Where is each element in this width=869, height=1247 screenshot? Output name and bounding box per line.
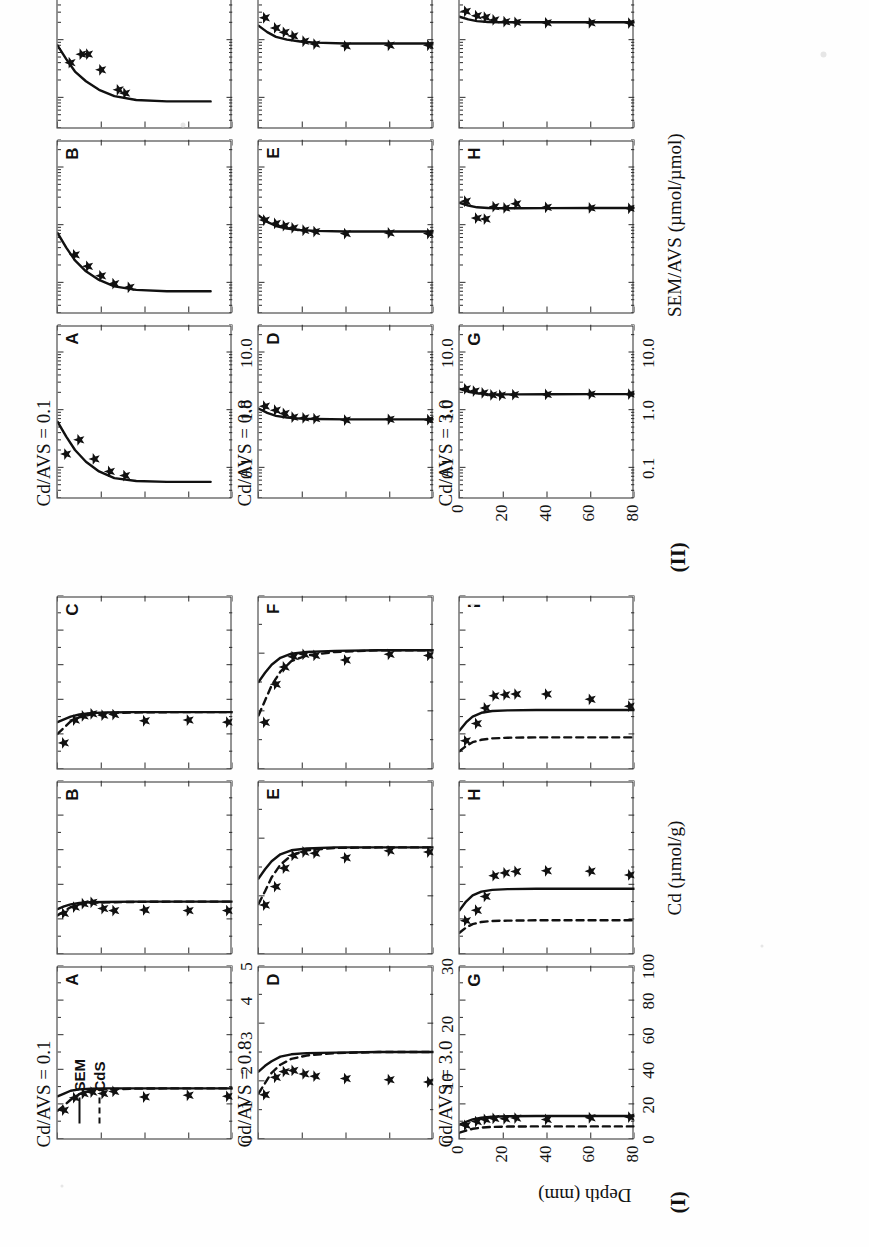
- data-point-marker: [97, 902, 108, 914]
- chart-panel-II-D: D: [257, 325, 432, 498]
- row-label-cd-avs: Cd/AVS = 3.0: [434, 399, 456, 506]
- scan-artifact: [470, 603, 474, 607]
- data-point-marker: [309, 1070, 320, 1082]
- group-tag-I: (I): [665, 1191, 690, 1213]
- plot-area: [459, 0, 634, 127]
- panel-letter-A: A: [62, 332, 82, 344]
- data-point-marker: [540, 864, 551, 876]
- data-point-marker: [540, 201, 551, 213]
- chart-panel-II-H: H: [458, 140, 633, 313]
- chart-panel-I-B: B: [56, 781, 231, 954]
- plot-area: [258, 780, 433, 953]
- chart-panel-I-E: E: [257, 781, 432, 954]
- data-point-marker: [298, 1068, 309, 1080]
- y-tick-label: 80: [622, 1145, 642, 1173]
- panel-letter-H: H: [464, 147, 484, 159]
- data-point-marker: [623, 869, 634, 881]
- panel-letter-E: E: [263, 788, 283, 799]
- legend: SEMCdS: [70, 1058, 110, 1123]
- panel-letter-E: E: [263, 147, 283, 158]
- data-point-marker: [57, 737, 68, 749]
- scan-artifact: [60, 1184, 63, 1187]
- chart-panel-II-B: B: [56, 140, 231, 313]
- figure-canvas: ABCCd/AVS = 0.1012345DEFCd/AVS = 0.80102…: [0, 0, 869, 1247]
- data-point-marker: [339, 227, 350, 239]
- data-point-marker: [422, 1076, 433, 1088]
- plot-area: [459, 595, 634, 768]
- legend-key-solid: [78, 1097, 80, 1123]
- data-point-marker: [470, 717, 481, 729]
- scan-artifact: [180, 122, 185, 127]
- legend-item-sem: SEM: [70, 1058, 87, 1123]
- plot-area: [57, 324, 232, 497]
- x-tick-label: 0.1: [638, 452, 658, 484]
- plot-area: [57, 0, 232, 127]
- data-point-marker: [182, 1089, 193, 1101]
- x-axis-title: Cd (µmol/g): [663, 778, 685, 958]
- data-point-marker: [339, 654, 350, 666]
- data-point-marker: [339, 40, 350, 52]
- data-point-marker: [488, 869, 499, 881]
- panel-letter-H: H: [464, 788, 484, 800]
- legend-key-dashed: [98, 1097, 100, 1123]
- series-semavs: [57, 232, 210, 290]
- data-point-marker: [309, 38, 320, 50]
- data-point-marker: [479, 213, 490, 225]
- plot-area: [258, 595, 433, 768]
- plot-area: [459, 965, 634, 1138]
- data-point-marker: [88, 453, 99, 465]
- chart-panel-II-A: A: [56, 325, 231, 498]
- panel-letter-G: G: [464, 332, 484, 345]
- data-point-marker: [383, 39, 394, 51]
- y-tick-label: 60: [578, 1145, 598, 1173]
- data-point-marker: [510, 1112, 521, 1124]
- data-point-marker: [182, 714, 193, 726]
- data-point-marker: [123, 281, 134, 293]
- data-point-marker: [138, 714, 149, 726]
- x-tick-label: 60: [638, 1019, 658, 1051]
- plot-area: [258, 139, 433, 312]
- x-tick-label: 20: [437, 1008, 457, 1040]
- panel-letter-A: A: [62, 973, 82, 985]
- series-cds: [459, 920, 634, 932]
- chart-panel-I-C: C: [56, 596, 231, 769]
- x-tick-label: 30: [437, 950, 457, 982]
- row-label-cd-avs: Cd/AVS = 0.8: [233, 399, 255, 506]
- chart-panel-II-I: I: [458, 0, 633, 128]
- plot-area: [459, 324, 634, 497]
- x-tick-label: 80: [638, 985, 658, 1017]
- data-point-marker: [269, 880, 280, 892]
- data-point-marker: [499, 866, 510, 878]
- data-point-marker: [510, 865, 521, 877]
- data-point-marker: [138, 904, 149, 916]
- x-axis-title: SEM/AVS (µmol/µmol): [663, 137, 685, 317]
- plot-area: [258, 965, 433, 1138]
- figure-rotation-wrapper: ABCCd/AVS = 0.1012345DEFCd/AVS = 0.80102…: [0, 0, 869, 1247]
- chart-panel-II-C: C: [56, 0, 231, 128]
- data-point-marker: [182, 904, 193, 916]
- data-point-marker: [488, 689, 499, 701]
- data-point-marker: [470, 212, 481, 224]
- scan-artifact: [760, 944, 763, 947]
- x-tick-label: 40: [638, 1054, 658, 1086]
- y-tick-label: 80: [622, 504, 642, 532]
- series-sem: [459, 710, 634, 730]
- series-semavs: [57, 421, 210, 481]
- x-tick-label: 5: [236, 950, 256, 982]
- data-point-marker: [459, 5, 470, 17]
- panel-letter-B: B: [62, 788, 82, 800]
- panel-letter-C: C: [62, 603, 82, 615]
- plot-area: [57, 139, 232, 312]
- data-point-marker: [269, 22, 280, 34]
- data-point-marker: [459, 914, 470, 926]
- scan-artifact: [820, 51, 826, 57]
- data-point-marker: [339, 851, 350, 863]
- data-point-marker: [138, 1091, 149, 1103]
- legend-label: SEM: [70, 1058, 87, 1091]
- data-point-marker: [221, 716, 232, 728]
- legend-label: CdS: [90, 1061, 107, 1091]
- row-label-cd-avs: Cd/AVS = 0.1: [32, 399, 54, 506]
- x-tick-label: 100: [638, 950, 658, 982]
- data-point-marker: [221, 904, 232, 916]
- row-label-cd-avs: Cd/AVS = 0.1: [32, 1040, 54, 1147]
